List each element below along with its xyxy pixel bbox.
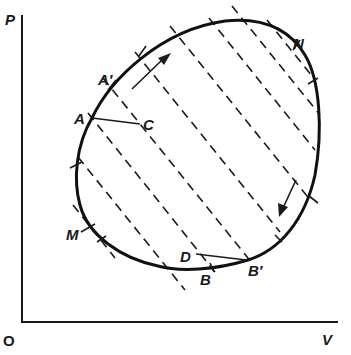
label-m: M [66,226,79,243]
adiabat-line-2 [78,157,185,290]
label-a: A [73,110,85,127]
label-d: D [180,248,191,265]
label-a-prime: A′ [97,71,114,88]
tick-mark [309,196,318,203]
y-axis-label: P [5,11,16,28]
label-b: B [200,271,211,288]
direction-arrow-upper [132,53,171,89]
segment-ac [92,118,140,124]
direction-arrow-lower-right [278,180,296,217]
label-b-prime: B′ [248,262,264,279]
axes [21,15,338,322]
origin-label: O [3,332,15,349]
label-c: C [143,116,155,133]
adiabatic-lines [73,6,320,290]
x-axis-label: V [322,331,334,348]
adiabat-line-6 [170,26,311,201]
cycle-curve [76,20,319,269]
pv-diagram: P V O A′ A C [0,0,351,355]
label-n: N [293,35,305,52]
